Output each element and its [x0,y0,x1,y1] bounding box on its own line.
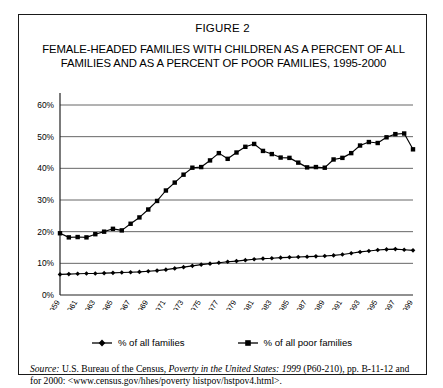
data-point-marker [146,269,151,274]
data-point-marker [93,232,97,236]
data-point-marker [93,271,98,276]
data-point-marker [349,251,354,256]
data-point-marker [384,135,388,139]
data-point-marker [67,235,71,239]
data-point-marker [287,156,291,160]
data-point-marker [58,231,62,235]
data-point-marker [172,266,177,271]
data-point-marker [102,229,106,233]
data-point-marker [270,256,275,261]
source-publication-title: Poverty in the United States: 1999 [168,363,300,374]
data-point-marker [305,254,310,259]
gridlines-group [60,105,413,263]
source-note: Source: U.S. Bureau of the Census, Pover… [30,363,418,388]
data-point-marker [331,253,336,258]
x-axis-tick-label: 1959 [45,299,61,311]
data-point-marker [252,142,256,146]
data-point-marker [190,264,195,269]
data-point-marker [243,145,247,149]
data-point-marker [102,271,107,276]
data-point-marker [208,261,213,266]
x-axis-tick-label: 1983 [257,299,273,311]
data-point-marker [58,272,63,277]
data-point-marker [384,247,389,252]
data-point-marker [120,228,124,232]
figure-frame: FIGURE 2 FEMALE-HEADED FAMILIES WITH CHI… [18,14,427,375]
x-axis-tick-label: 1961 [63,299,79,311]
data-point-marker [314,254,319,259]
data-point-marker [173,180,177,184]
data-point-marker [217,151,221,155]
x-axis-tick-label: 1981 [240,299,256,311]
source-label: Source: [30,363,59,374]
data-point-marker [411,248,416,253]
data-point-marker [137,215,141,219]
data-point-marker [393,247,398,252]
data-point-marker [270,152,274,156]
data-point-marker [375,248,380,253]
x-axis-tick-label: 1965 [98,299,114,311]
data-point-marker [261,149,265,153]
data-point-marker [225,157,229,161]
x-axis-tick-labels: 1959196119631965196719691971197319751977… [45,299,414,311]
data-point-marker [296,160,300,164]
y-axis-tick-label: 60% [37,100,54,110]
data-point-marker [322,254,327,259]
data-point-marker [67,272,72,277]
data-point-marker [367,249,372,254]
x-axis-tick-label: 1971 [151,299,167,311]
data-point-marker [314,165,318,169]
x-axis-tick-label: 1991 [328,299,344,311]
y-axis-tick-label: 30% [37,195,54,205]
data-point-marker [119,270,124,275]
data-point-marker [75,271,80,276]
chart-plot-area: 0%10%20%30%40%50%60% 1959196119631965196… [19,85,424,310]
source-text-1: U.S. Bureau of the Census, [59,363,168,374]
data-point-marker [261,256,266,261]
x-axis-tick-label: 1999 [398,299,414,311]
x-axis-tick-label: 1995 [363,299,379,311]
x-axis-tick-label: 1967 [116,299,132,311]
data-point-marker [128,270,133,275]
data-point-marker [190,166,194,170]
y-axis-tick-label: 10% [37,258,54,268]
data-point-marker [243,258,248,263]
data-point-marker [234,150,238,154]
data-point-marker [146,207,150,211]
x-axis-tick-label: 1977 [204,299,220,311]
data-point-marker [199,165,203,169]
x-axis-tick-label: 1963 [81,299,97,311]
x-axis-tick-label: 1989 [310,299,326,311]
diamond-marker-icon [91,338,113,348]
data-point-marker [84,271,89,276]
y-axis-tick-labels: 0%10%20%30%40%50%60% [37,100,54,300]
data-point-marker [331,157,335,161]
data-point-marker [155,199,159,203]
legend-label-all-poor-families: % of all poor families [264,337,353,348]
data-point-marker [234,259,239,264]
data-point-marker [340,156,344,160]
y-axis-tick-label: 0% [42,290,55,300]
y-axis-tick-label: 20% [37,227,54,237]
data-point-marker [128,222,132,226]
data-point-marker [393,132,397,136]
data-point-marker [164,267,169,272]
axis-lines [60,93,413,295]
data-point-marker [296,255,301,260]
y-axis-tick-label: 50% [37,132,54,142]
data-point-marker [323,166,327,170]
x-axis-tick-label: 1985 [275,299,291,311]
data-point-marker [349,151,353,155]
data-point-marker [340,252,345,257]
data-point-marker [402,247,407,252]
data-point-marker [287,255,292,260]
data-point-marker [208,158,212,162]
data-point-marker [278,155,282,159]
square-marker-icon [237,338,259,348]
legend-item-all-poor-families: % of all poor families [237,337,353,348]
x-axis-tick-label: 1997 [381,299,397,311]
series-line-all-poor-families [60,134,413,238]
data-point-marker [376,141,380,145]
data-point-marker [402,131,406,135]
data-point-marker [278,255,283,260]
